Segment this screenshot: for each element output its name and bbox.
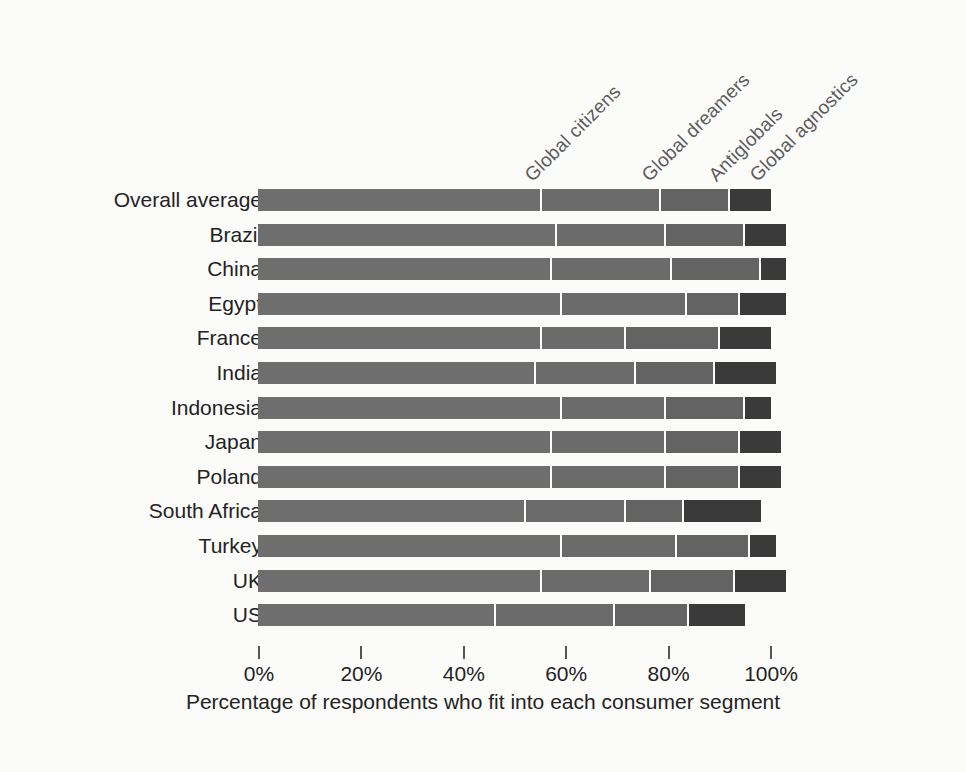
bar-segment	[552, 258, 670, 280]
bar-segment	[684, 500, 761, 522]
bar-segment	[562, 397, 664, 419]
bar-row: Egypt	[0, 290, 966, 325]
category-label: France	[0, 326, 262, 350]
bar-segment	[761, 258, 787, 280]
bar-row: Overall average	[0, 186, 966, 221]
bar-segment	[258, 189, 540, 211]
bar-segment	[542, 327, 624, 349]
bar-segment	[557, 224, 665, 246]
bar-segment	[740, 293, 786, 315]
stacked-bar	[258, 258, 786, 280]
stacked-bar	[258, 189, 771, 211]
bar-segment	[672, 258, 759, 280]
x-axis-tick	[463, 646, 465, 659]
bar-segment	[542, 570, 650, 592]
stacked-bar	[258, 604, 745, 626]
bar-segment	[615, 604, 687, 626]
bar-row: South Africa	[0, 497, 966, 532]
bar-row: India	[0, 359, 966, 394]
bar-segment	[258, 466, 550, 488]
segment-legend-label: Global citizens	[520, 81, 625, 186]
bar-segment	[666, 397, 743, 419]
stacked-bar	[258, 466, 781, 488]
bar-segment	[666, 466, 738, 488]
bar-segment	[496, 604, 614, 626]
x-axis-tick-label: 40%	[443, 662, 485, 686]
category-label: Egypt	[0, 292, 262, 316]
x-axis-tick	[565, 646, 567, 659]
bar-segment	[552, 466, 665, 488]
bar-segment	[735, 570, 786, 592]
bar-segment	[562, 535, 675, 557]
bar-segment	[258, 431, 550, 453]
category-label: Brazil	[0, 223, 262, 247]
bar-row: UK	[0, 567, 966, 602]
stacked-bar	[258, 327, 771, 349]
bar-segment	[626, 327, 718, 349]
segment-label-group: Global citizensGlobal dreamersAntiglobal…	[0, 0, 966, 190]
category-label: South Africa	[0, 499, 262, 523]
x-axis-tick-label: 20%	[340, 662, 382, 686]
category-label: UK	[0, 569, 262, 593]
bar-segment	[258, 258, 550, 280]
x-axis-tick-label: 0%	[244, 662, 274, 686]
x-axis-tick-label: 100%	[744, 662, 798, 686]
bar-segment	[258, 397, 560, 419]
bar-segment	[258, 500, 524, 522]
x-axis-tick-label: 60%	[545, 662, 587, 686]
category-label: India	[0, 361, 262, 385]
bar-segment	[258, 535, 560, 557]
stacked-bar	[258, 362, 776, 384]
bar-segment	[526, 500, 623, 522]
stacked-bar-chart: Global citizensGlobal dreamersAntiglobal…	[0, 0, 966, 772]
bar-segment	[715, 362, 776, 384]
bar-segment	[542, 189, 660, 211]
plot-area: Overall averageBrazilChinaEgyptFranceInd…	[0, 186, 966, 636]
bar-row: Brazil	[0, 221, 966, 256]
bar-row: France	[0, 324, 966, 359]
bar-segment	[687, 293, 738, 315]
bar-segment	[666, 224, 743, 246]
category-label: US	[0, 603, 262, 627]
bar-segment	[720, 327, 771, 349]
bar-segment	[636, 362, 713, 384]
bar-segment	[258, 293, 560, 315]
bar-segment	[626, 500, 682, 522]
bar-segment	[661, 189, 728, 211]
category-label: Poland	[0, 465, 262, 489]
stacked-bar	[258, 535, 776, 557]
bar-row: Turkey	[0, 532, 966, 567]
bar-segment	[689, 604, 745, 626]
bar-row: Poland	[0, 463, 966, 498]
bar-segment	[745, 397, 771, 419]
bar-segment	[258, 327, 540, 349]
bar-segment	[536, 362, 633, 384]
category-label: China	[0, 257, 262, 281]
bar-segment	[745, 224, 786, 246]
bar-segment	[666, 431, 738, 453]
category-label: Overall average	[0, 188, 262, 212]
bar-row: China	[0, 255, 966, 290]
bar-row: US	[0, 601, 966, 636]
x-axis-tick-label: 80%	[648, 662, 690, 686]
x-axis-tick	[770, 646, 772, 659]
category-label: Indonesia	[0, 396, 262, 420]
bar-segment	[258, 224, 555, 246]
x-axis-tick	[258, 646, 260, 659]
bar-segment	[750, 535, 776, 557]
stacked-bar	[258, 570, 786, 592]
bar-segment	[677, 535, 749, 557]
bar-segment	[740, 431, 781, 453]
bar-row: Japan	[0, 428, 966, 463]
x-axis-tick	[360, 646, 362, 659]
stacked-bar	[258, 224, 786, 246]
x-axis-tick	[668, 646, 670, 659]
category-label: Turkey	[0, 534, 262, 558]
bar-segment	[552, 431, 665, 453]
bar-segment	[258, 604, 494, 626]
bar-segment	[651, 570, 733, 592]
bar-segment	[258, 570, 540, 592]
stacked-bar	[258, 431, 781, 453]
category-label: Japan	[0, 430, 262, 454]
stacked-bar	[258, 500, 761, 522]
